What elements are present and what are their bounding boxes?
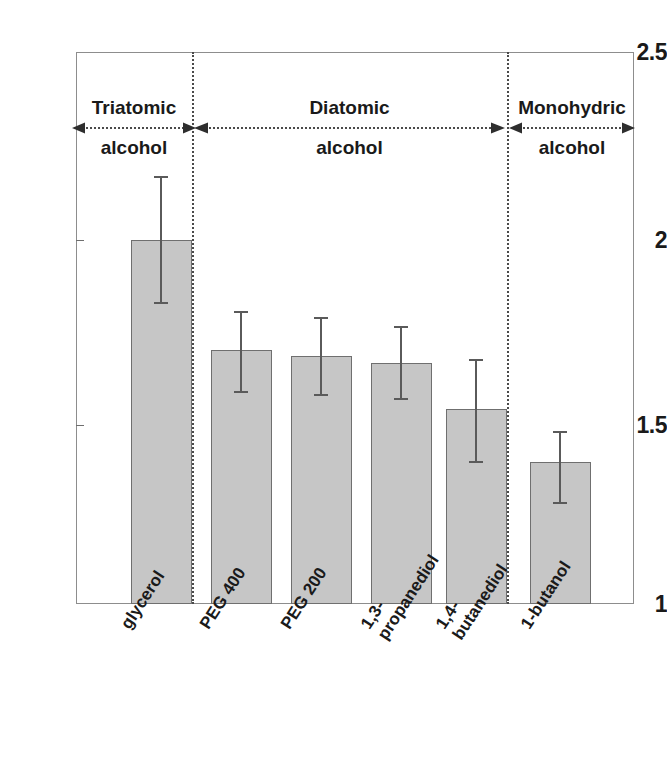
double-arrow-icon [194, 120, 505, 136]
error-bar-cap-upper-peg-400 [234, 311, 248, 313]
group-annotation-diatomic: Diatomic alcohol [194, 96, 505, 160]
error-bar-line-1-4-butanediol [475, 359, 477, 462]
group-annotation-subtitle: alcohol [72, 136, 196, 160]
error-bar-line-1-butanol [559, 431, 561, 503]
group-annotation-monohydric: Monohydric alcohol [509, 96, 635, 160]
error-bar-cap-upper-1-3-propanediol [394, 326, 408, 328]
y-tick-mark-2 [76, 240, 84, 241]
error-bar-cap-lower-peg-400 [234, 391, 248, 393]
group-annotation-subtitle: alcohol [509, 136, 635, 160]
error-bar-cap-lower-peg-200 [314, 394, 328, 396]
y-tick-label-1_5: 1.5 [597, 412, 667, 439]
error-bar-cap-lower-1-3-propanediol [394, 398, 408, 400]
y-tick-label-2: 2 [597, 227, 667, 254]
error-bar-line-peg-200 [320, 317, 322, 395]
error-bar-cap-upper-glycerol [154, 176, 168, 178]
group-annotation-triatomic: Triatomic alcohol [72, 96, 196, 160]
error-bar-cap-lower-1-4-butanediol [469, 461, 483, 463]
group-annotation-title: Monohydric [509, 96, 635, 120]
y-tick-mark-1_5 [76, 425, 84, 426]
error-bar-cap-upper-peg-200 [314, 317, 328, 319]
y-tick-label-1: 1 [597, 591, 667, 618]
group-annotation-title: Triatomic [72, 96, 196, 120]
error-bar-line-1-3-propanediol [400, 326, 402, 398]
double-arrow-icon [72, 120, 196, 136]
error-bar-cap-upper-1-4-butanediol [469, 359, 483, 361]
error-bar-cap-lower-1-butanol [553, 502, 567, 504]
error-bar-cap-lower-glycerol [154, 302, 168, 304]
group-annotation-subtitle: alcohol [194, 136, 505, 160]
error-bar-cap-upper-1-butanol [553, 431, 567, 433]
error-bar-line-glycerol [160, 176, 162, 303]
bar-chart: 2.5 2 1.5 1 Triatomic alcohol Diatomic [0, 0, 667, 761]
y-tick-label-2_5: 2.5 [597, 39, 667, 66]
group-annotation-title: Diatomic [194, 96, 505, 120]
error-bar-line-peg-400 [240, 311, 242, 392]
double-arrow-icon [509, 120, 635, 136]
